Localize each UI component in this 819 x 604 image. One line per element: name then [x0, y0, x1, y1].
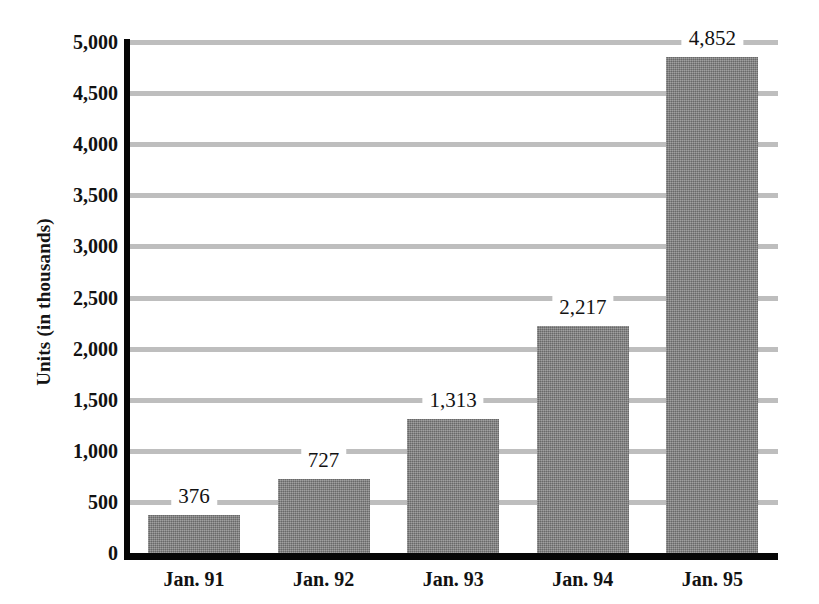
y-axis-tick-label: 3,000	[73, 236, 118, 256]
y-axis-tick-label: 1,500	[73, 390, 118, 410]
y-axis-tick-label: 2,000	[73, 339, 118, 359]
y-axis-tick-label: 500	[88, 492, 118, 512]
y-axis-title: Units (in thousands)	[22, 0, 66, 604]
bar[interactable]	[407, 419, 499, 553]
y-axis-line	[124, 39, 130, 556]
bar[interactable]	[278, 479, 370, 553]
y-axis-tick-label: 4,500	[73, 83, 118, 103]
x-axis-tick-label: Jan. 94	[552, 569, 613, 589]
bar[interactable]	[537, 326, 629, 553]
y-axis-tick-label: 4,000	[73, 134, 118, 154]
x-axis-tick-label: Jan. 91	[163, 569, 224, 589]
y-axis-tick-label: 1,000	[73, 441, 118, 461]
x-axis-tick-label: Jan. 92	[293, 569, 354, 589]
y-axis-tick-label: 0	[108, 543, 118, 563]
bar-value-label: 2,217	[552, 296, 613, 320]
bar-value-label: 727	[301, 449, 347, 473]
bar[interactable]	[666, 57, 758, 553]
y-axis-tick-label: 2,500	[73, 288, 118, 308]
bar-value-label: 4,852	[682, 27, 743, 51]
bar-value-label: 376	[171, 485, 217, 509]
plot-area: 05001,0001,5002,0002,5003,0003,5004,0004…	[130, 42, 778, 553]
x-axis-tick-label: Jan. 95	[682, 569, 743, 589]
y-axis-tick-label: 3,500	[73, 185, 118, 205]
x-axis-tick-label: Jan. 93	[423, 569, 484, 589]
y-axis-tick-label: 5,000	[73, 32, 118, 52]
bar[interactable]	[148, 515, 240, 553]
bar-value-label: 1,313	[423, 389, 484, 413]
bar-chart-figure: Units (in thousands) 05001,0001,5002,000…	[0, 0, 819, 604]
x-axis-line	[124, 553, 778, 560]
